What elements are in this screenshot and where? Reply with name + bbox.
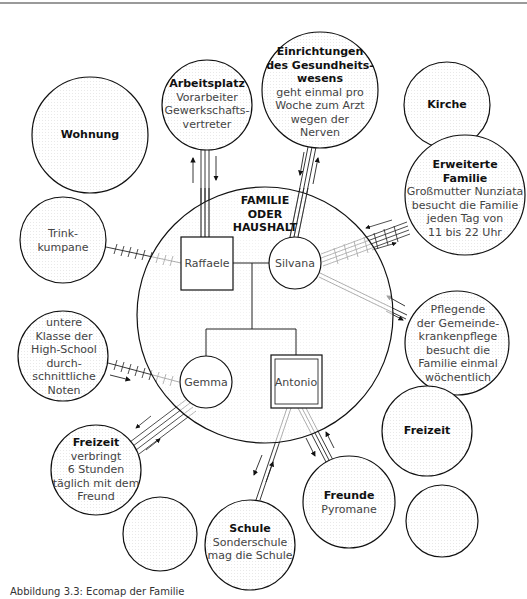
person-raffaele: Raffaele	[184, 257, 229, 270]
person-antonio: Antonio	[275, 376, 317, 389]
family-title: FAMILIE ODER HAUSHALT	[233, 194, 298, 235]
figure-caption: Abbildung 3.3: Ecomap der Familie	[10, 586, 184, 597]
ecomap-diagram	[0, 0, 527, 599]
person-gemma: Gemma	[184, 376, 227, 389]
label-arbeitsplatz: Arbeitsplatz Vorarbeiter Gewerkschafts- …	[164, 77, 249, 131]
label-trinkkumpane: Trink- kumpane	[37, 227, 88, 254]
label-erweiterte-familie: Erweiterte Familie Großmutter Nunziata b…	[407, 158, 523, 239]
label-freizeit-gemma: Freizeit verbringt 6 Stunden täglich mit…	[53, 436, 140, 504]
label-pflege: Pflegende der Gemeinde- krankenpflege be…	[417, 303, 499, 384]
node-empty-right	[406, 485, 478, 557]
label-gesundheit: Einrichtungen des Gesundheits- wesens ge…	[266, 45, 374, 140]
label-freunde: Freunde Pyromane	[321, 489, 376, 516]
label-wohnung: Wohnung	[61, 128, 120, 142]
person-silvana: Silvana	[275, 257, 315, 270]
label-highschool: untere Klasse der High-School durch- sch…	[31, 316, 97, 397]
node-empty-left	[123, 497, 197, 571]
label-schule-antonio: Schule Sonderschule mag die Schule	[207, 522, 292, 563]
label-kirche: Kirche	[427, 98, 467, 112]
label-freizeit-right: Freizeit	[404, 424, 450, 438]
